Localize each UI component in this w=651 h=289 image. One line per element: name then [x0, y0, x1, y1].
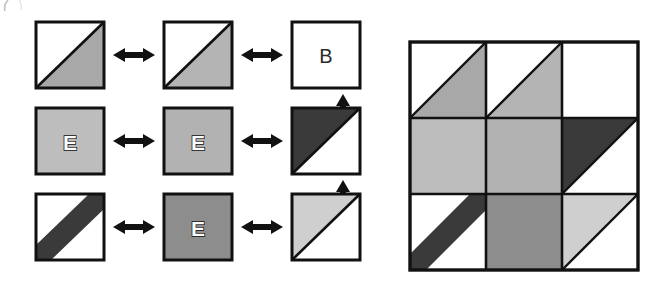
tile-r0c0[interactable] [36, 22, 104, 88]
composite-r0c2[interactable] [562, 42, 638, 118]
composite-r2c0[interactable] [410, 194, 486, 270]
composite-r0c0[interactable] [410, 42, 486, 118]
composite-r2c1[interactable] [486, 194, 562, 270]
figure-svg: B E E [0, 0, 651, 289]
composite-r1c1[interactable] [486, 118, 562, 194]
tile-label-e: E [191, 217, 205, 240]
composite-r0c1[interactable] [486, 42, 562, 118]
figure-canvas: B E E [0, 0, 651, 289]
tile-r1c2[interactable] [292, 108, 360, 174]
tile-label-e: E [191, 131, 205, 154]
composite-r1c0[interactable] [410, 118, 486, 194]
tile-r2c1[interactable]: E [164, 194, 232, 260]
composite-r1c2[interactable] [562, 118, 638, 194]
tile-label-b: B [319, 45, 332, 67]
tile-r1c1[interactable]: E [164, 108, 232, 174]
tile-source-grid: B E E [36, 22, 360, 260]
tile-r0c1[interactable] [164, 22, 232, 88]
tile-r0c2[interactable]: B [292, 22, 360, 88]
composite-r2c2[interactable] [562, 194, 638, 270]
tile-r2c2[interactable] [292, 194, 360, 260]
tile-r2c0[interactable] [36, 194, 104, 260]
assembled-composite-grid [410, 42, 638, 270]
tile-r1c0[interactable]: E [36, 108, 104, 174]
tile-label-e: E [63, 131, 77, 154]
